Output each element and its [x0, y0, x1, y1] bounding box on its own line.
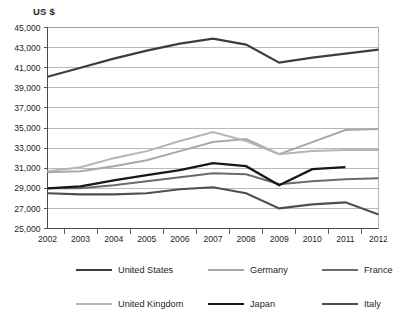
legend-swatch-icon: [76, 269, 112, 271]
x-tick-label: 2011: [336, 234, 355, 244]
legend-item-germany[interactable]: Germany: [208, 265, 288, 275]
y-tick-label: 33,000: [14, 143, 41, 153]
y-tick-label: 37,000: [14, 103, 41, 113]
legend-label: France: [364, 265, 393, 275]
legend-row: United StatesGermanyFrance: [0, 262, 387, 279]
legend-swatch-icon: [322, 303, 358, 305]
y-tick-label: 27,000: [14, 204, 41, 214]
x-tick-label: 2004: [104, 234, 123, 244]
series-line-france: [48, 173, 379, 188]
series-line-united-states: [48, 39, 379, 77]
legend-label: Japan: [250, 299, 275, 309]
gridlines: [44, 28, 379, 229]
legend-label: United States: [118, 265, 173, 275]
legend-label: Germany: [250, 265, 288, 275]
plot-area: 45,00043,00041,00039,00037,00035,00033,0…: [0, 0, 387, 262]
legend-swatch-icon: [322, 269, 358, 271]
y-tick-label: 31,000: [14, 163, 41, 173]
series-line-italy: [48, 187, 379, 214]
y-tick-label: 35,000: [14, 123, 41, 133]
x-tick-label: 2005: [137, 234, 156, 244]
y-axis-tick-labels: 45,00043,00041,00039,00037,00035,00033,0…: [14, 23, 41, 234]
y-tick-label: 45,000: [14, 23, 41, 33]
y-tick-label: 29,000: [14, 183, 41, 193]
legend-swatch-icon: [208, 269, 244, 271]
legend-item-united-kingdom[interactable]: United Kingdom: [76, 299, 183, 309]
legend-label: United Kingdom: [118, 299, 183, 309]
chart-legend: United StatesGermanyFranceUnited Kingdom…: [0, 262, 387, 296]
legend-item-france[interactable]: France: [322, 265, 393, 275]
x-tick-label: 2009: [270, 234, 289, 244]
legend-item-united-states[interactable]: United States: [76, 265, 173, 275]
legend-swatch-icon: [208, 303, 244, 305]
y-tick-label: 25,000: [14, 224, 41, 234]
x-tick-label: 2010: [303, 234, 322, 244]
y-tick-label: 41,000: [14, 63, 41, 73]
x-tick-label: 2006: [170, 234, 189, 244]
legend-label: Italy: [364, 299, 381, 309]
series-line-united-kingdom: [48, 132, 379, 171]
legend-row: United KingdomJapanItaly: [0, 279, 387, 296]
x-tick-label: 2002: [38, 234, 57, 244]
x-tick-label: 2003: [71, 234, 90, 244]
x-tick-label: 2007: [203, 234, 222, 244]
y-tick-label: 43,000: [14, 43, 41, 53]
x-tick-label: 2012: [369, 234, 387, 244]
x-axis-tick-labels: 2002200320042005200620072008200920102011…: [38, 234, 387, 244]
legend-item-italy[interactable]: Italy: [322, 299, 381, 309]
legend-item-japan[interactable]: Japan: [208, 299, 275, 309]
y-tick-label: 39,000: [14, 83, 41, 93]
legend-swatch-icon: [76, 303, 112, 305]
x-tick-label: 2008: [237, 234, 256, 244]
